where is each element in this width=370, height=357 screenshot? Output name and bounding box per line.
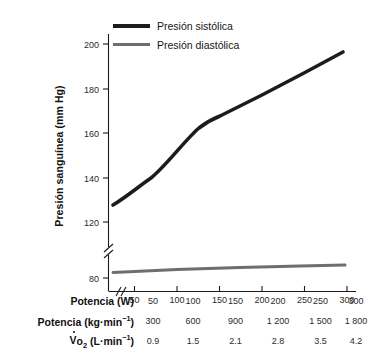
table-row-vo2: Vo2 (L·min−1) 0.9 1.5 2.1 2.8 3.5 4.2	[0, 331, 370, 351]
y-tick-label-80: 80	[89, 274, 99, 284]
legend-label-systolic: Presión sistólica	[157, 20, 233, 32]
cell-vo2-5: 4.2	[342, 331, 370, 351]
cell-potencia-kgmin-0: 300	[134, 311, 172, 331]
cell-vo2-2: 2.1	[214, 331, 257, 351]
cell-potencia-w-4: 250	[299, 291, 342, 311]
legend-item-diastolic: Presión diastólica	[113, 37, 239, 52]
cell-potencia-kgmin-3: 1 200	[257, 311, 299, 331]
cell-vo2-0: 0.9	[134, 331, 172, 351]
series-line-diastolic	[113, 265, 345, 273]
cell-potencia-w-2: 150	[214, 291, 257, 311]
row-label-potencia-kgmin: Potencia (kg·min−1)	[0, 311, 134, 331]
cell-potencia-kgmin-4: 1 500	[299, 311, 342, 331]
table-row-potencia-w: Potencia (W) 50 100 150 200 250 300	[0, 291, 370, 311]
row-label-potencia-w: Potencia (W)	[0, 291, 134, 311]
y-tick-label-180: 180	[84, 85, 99, 95]
y-tick-label-140: 140	[84, 174, 99, 184]
y-tick-label-160: 160	[84, 129, 99, 139]
cell-potencia-kgmin-1: 600	[172, 311, 214, 331]
legend-item-systolic: Presión sistólica	[113, 18, 239, 33]
y-tick-label-120: 120	[84, 218, 99, 228]
y-axis-title: Presión sanguínea (mm Hg)	[53, 51, 65, 261]
legend-swatch-systolic-icon	[113, 24, 150, 28]
cell-potencia-kgmin-5: 1 800	[342, 311, 370, 331]
cell-vo2-1: 1.5	[172, 331, 214, 351]
cell-potencia-w-3: 200	[257, 291, 299, 311]
y-tick-label-200: 200	[84, 40, 99, 50]
cell-potencia-w-5: 300	[342, 291, 370, 311]
cell-potencia-w-1: 100	[172, 291, 214, 311]
cell-potencia-w-0: 50	[134, 291, 172, 311]
chart-legend: Presión sistólica Presión diastólica	[113, 18, 239, 52]
legend-label-diastolic: Presión diastólica	[157, 39, 239, 51]
blood-pressure-figure: 200 180 160 140 120 80 50 100 150 200 25…	[0, 0, 370, 357]
legend-swatch-diastolic-icon	[113, 43, 150, 46]
cell-vo2-4: 3.5	[299, 331, 342, 351]
cell-potencia-kgmin-2: 900	[214, 311, 257, 331]
row-label-vo2: Vo2 (L·min−1)	[0, 331, 134, 351]
series-line-systolic	[113, 52, 343, 205]
axis-data-table: Potencia (W) 50 100 150 200 250 300 Pote…	[0, 291, 370, 351]
table-row-potencia-kgmin: Potencia (kg·min−1) 300 600 900 1 200 1 …	[0, 311, 370, 331]
cell-vo2-3: 2.8	[257, 331, 299, 351]
